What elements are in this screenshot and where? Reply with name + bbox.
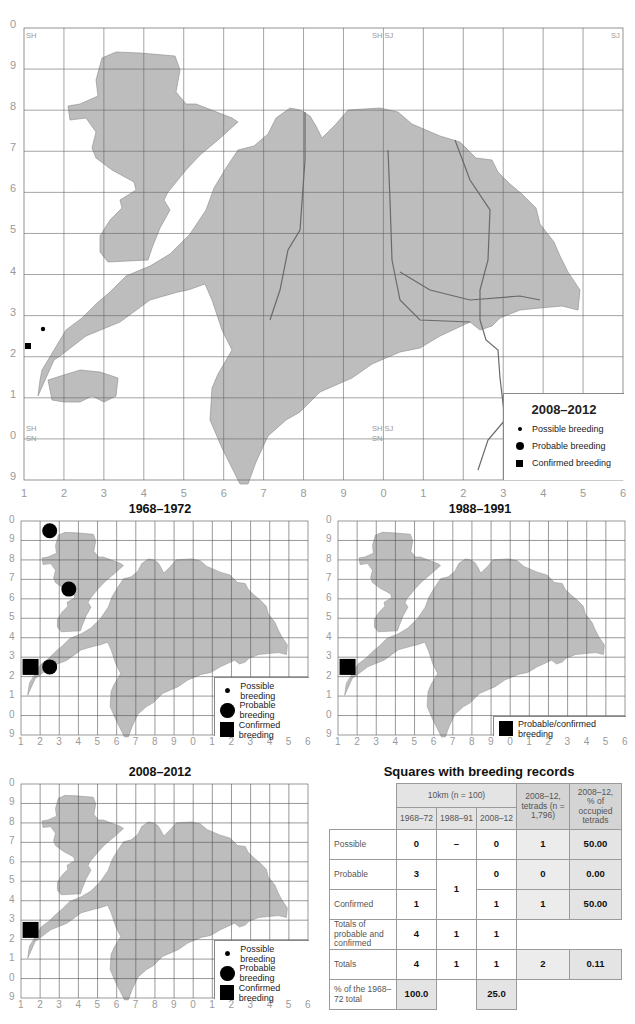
x-tick: 2	[37, 737, 43, 747]
y-tick: 8	[10, 101, 16, 112]
y-tick: 9	[9, 797, 15, 807]
small-map-title-2008: 2008–2012	[60, 765, 260, 779]
x-tick: 6	[114, 737, 120, 747]
y-tick: 2	[9, 671, 15, 681]
main-map-legend: 2008–2012 Possible breeding Probable bre…	[503, 393, 624, 480]
x-tick: 3	[500, 488, 506, 499]
y-tick: 0	[326, 515, 332, 525]
x-tick: 7	[133, 1000, 139, 1010]
cell-totals-pc-2008: 1	[476, 919, 517, 950]
x-tick: 3	[56, 737, 62, 747]
cell-possible-2008: 0	[476, 829, 517, 860]
header-1968: 1968–72	[396, 807, 437, 830]
y-tick: 3	[9, 914, 15, 924]
x-tick: 6	[221, 488, 227, 499]
cell-confirmed-pct: 50.00	[569, 889, 622, 920]
cell-totals-2008: 1	[476, 949, 517, 980]
x-tick: 9	[488, 737, 494, 747]
y-tick: 3	[9, 651, 15, 661]
legend-item: Probable breeding	[220, 963, 309, 983]
x-tick: 4	[75, 737, 81, 747]
x-tick: 9	[340, 488, 346, 499]
y-tick: 8	[9, 817, 15, 827]
probable-breeding-marker	[42, 659, 57, 674]
confirmed-breeding-marker	[23, 922, 39, 938]
y-tick: 9	[9, 992, 15, 1002]
confirmed-breeding-marker	[340, 659, 356, 675]
x-tick: 8	[469, 737, 475, 747]
legend-item-possible: Possible breeding	[516, 424, 604, 434]
land-relief	[38, 52, 580, 484]
large-dot-icon	[220, 703, 234, 718]
legend-item-probable: Probable breeding	[516, 441, 606, 451]
square-icon	[516, 460, 523, 467]
y-tick: 1	[10, 389, 16, 400]
cell-probable-1968: 3	[396, 859, 437, 890]
x-tick: 6	[431, 737, 437, 747]
y-tick: 4	[326, 632, 332, 642]
probable-breeding-marker	[61, 582, 76, 597]
y-tick: 5	[10, 224, 16, 235]
y-tick: 1	[326, 690, 332, 700]
header-tetrads: 2008–12, tetrads (n = 1,796)	[516, 783, 570, 830]
cell-totals-pc-1988: 1	[436, 919, 477, 950]
legend-item: Probable/confirmed breeding	[499, 719, 626, 739]
x-tick: 1	[21, 488, 27, 499]
probable-breeding-marker	[42, 523, 57, 538]
y-tick: 7	[326, 573, 332, 583]
x-tick: 1	[18, 1000, 24, 1010]
legend-label: Possible breeding	[240, 944, 309, 964]
main-map: 098765432109 1234567890123456 SH SH SJ S…	[0, 0, 635, 485]
x-tick: 0	[190, 1000, 196, 1010]
x-tick: 2	[37, 1000, 43, 1010]
x-tick: 0	[190, 737, 196, 747]
cell-possible-1988: –	[436, 829, 477, 860]
legend-label: Confirmed breeding	[239, 983, 309, 1003]
y-tick: 1	[9, 953, 15, 963]
small-map-1988-1991: 0987654321091234567890123456Probable/con…	[317, 515, 635, 735]
cell-confirmed-tetrads: 1	[516, 889, 570, 920]
grid-label-shsj-bottom: SH SJ	[372, 424, 393, 433]
y-tick: 0	[9, 973, 15, 983]
legend-label: Probable breeding	[240, 963, 309, 983]
confirmed-breeding-marker	[23, 659, 39, 675]
y-tick: 1	[9, 690, 15, 700]
grid-label-sh-bottom: SH	[26, 424, 36, 433]
legend-label: Confirmed breeding	[239, 720, 309, 740]
x-tick: 2	[460, 488, 466, 499]
square-icon	[499, 721, 513, 736]
small-map-title-1988: 1988–1991	[380, 502, 580, 516]
cell-confirmed-1968: 1	[396, 889, 437, 920]
y-tick: 2	[326, 671, 332, 681]
cell-pct-total-1968: 100.0	[396, 979, 437, 1010]
y-tick: 9	[326, 729, 332, 739]
grid-label-shsj-top: SH SJ	[372, 31, 393, 40]
possible-breeding-marker	[41, 327, 45, 331]
legend-label: Probable breeding	[240, 700, 309, 720]
square-icon	[220, 722, 233, 737]
x-tick: 1	[209, 1000, 215, 1010]
x-tick: 3	[373, 737, 379, 747]
y-tick: 8	[326, 554, 332, 564]
cell-probconf-1988: 1	[436, 859, 477, 920]
cell-totals-pct: 0.11	[569, 949, 622, 980]
y-tick: 0	[9, 710, 15, 720]
x-tick: 2	[61, 488, 67, 499]
y-tick: 5	[9, 612, 15, 622]
x-tick: 3	[101, 488, 107, 499]
x-tick: 5	[580, 488, 586, 499]
cell-possible-pct: 50.00	[569, 829, 622, 860]
y-tick: 9	[10, 60, 16, 71]
x-tick: 1	[335, 737, 341, 747]
legend-item-confirmed: Confirmed breeding	[516, 458, 611, 468]
grid-label-sn-mid-bottom: SN	[372, 434, 382, 443]
x-tick: 5	[181, 488, 187, 499]
cell-totals-1988: 1	[436, 949, 477, 980]
small-dot-icon	[518, 427, 522, 431]
square-icon	[220, 985, 233, 1000]
large-dot-icon	[220, 966, 234, 981]
y-tick: 9	[9, 729, 15, 739]
land-relief	[345, 532, 605, 737]
legend-title: 2008–2012	[504, 402, 624, 417]
y-tick: 4	[10, 266, 16, 277]
